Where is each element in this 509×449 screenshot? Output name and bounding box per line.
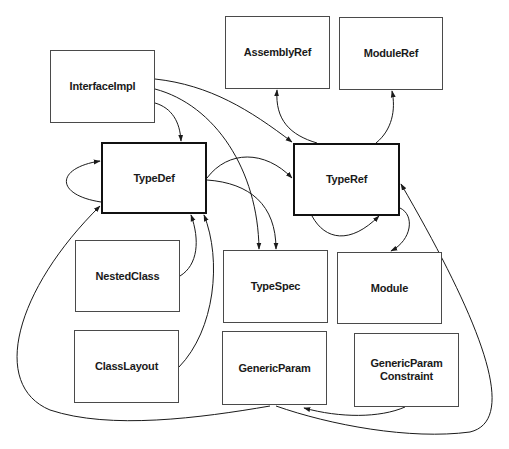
edge-typeref-moduleref (376, 91, 393, 143)
diagram-canvas: InterfaceImpl AssemblyRef ModuleRef Type… (0, 0, 509, 449)
node-label: TypeDef (133, 172, 174, 185)
node-label: InterfaceImpl (70, 80, 136, 93)
node-typeref: TypeRef (293, 143, 400, 216)
edge-typedef-self (66, 161, 101, 202)
edge-nestedclass-typedef (180, 215, 196, 276)
node-label: ClassLayout (95, 360, 158, 373)
edge-interfaceimpl-typedef (155, 103, 181, 141)
node-label: AssemblyRef (244, 46, 312, 59)
node-label: TypeRef (326, 173, 367, 186)
edge-typedef-typespec (207, 180, 276, 249)
node-typespec: TypeSpec (223, 250, 328, 323)
edge-typedef-typeref (207, 157, 292, 178)
node-typedef: TypeDef (101, 142, 207, 214)
node-module: Module (337, 252, 442, 324)
node-label: TypeSpec (251, 280, 301, 293)
node-interfaceimpl: InterfaceImpl (50, 50, 155, 123)
node-genericparamconstraint: GenericParam Constraint (354, 333, 459, 407)
node-label: Module (371, 282, 408, 295)
edge-typeref-self (312, 216, 379, 236)
node-genericparam: GenericParam (222, 331, 327, 405)
node-label: GenericParam (238, 362, 310, 375)
node-label: ModuleRef (364, 47, 418, 60)
edge-genericparamconstraint-genericparam (304, 407, 405, 415)
node-label: NestedClass (96, 270, 160, 283)
node-moduleref: ModuleRef (339, 17, 443, 90)
node-label: GenericParam Constraint (370, 357, 442, 383)
node-classlayout: ClassLayout (74, 330, 179, 403)
node-assemblyref: AssemblyRef (225, 16, 330, 89)
node-nestedclass: NestedClass (75, 240, 180, 312)
